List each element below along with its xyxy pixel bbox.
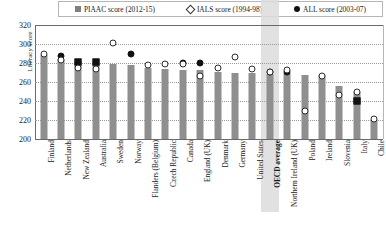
all-score-marker[interactable] [353, 98, 360, 105]
ials-score-marker[interactable] [371, 116, 378, 123]
bar-group[interactable] [226, 25, 243, 139]
y-tick-label-280: 280 [0, 59, 31, 68]
x-tick-label: Sweden [116, 140, 125, 163]
x-tick-label: Czech Republic [169, 140, 178, 187]
piaac-bar[interactable] [232, 73, 239, 140]
piaac-bar[interactable] [197, 70, 204, 139]
bar-group[interactable] [139, 25, 156, 139]
bar-group[interactable] [70, 25, 87, 139]
legend-item-ials: IALS score (1994-98) [187, 5, 262, 14]
bar-group[interactable] [157, 25, 174, 139]
x-tick-label: Ireland [325, 140, 334, 161]
ials-score-marker[interactable] [214, 64, 221, 71]
bar-group[interactable] [348, 25, 365, 139]
piaac-bar[interactable] [371, 120, 378, 139]
bar-group[interactable] [244, 25, 261, 139]
bar-group[interactable] [261, 25, 278, 139]
piaac-bar[interactable] [284, 73, 291, 139]
ials-score-marker[interactable] [197, 73, 204, 80]
piaac-bar[interactable] [145, 68, 152, 139]
bar-group[interactable] [105, 25, 122, 139]
ials-diamond-icon [185, 4, 195, 14]
ials-score-marker[interactable] [336, 92, 343, 99]
bar-group[interactable] [209, 25, 226, 139]
bar-group[interactable] [174, 25, 191, 139]
all-score-marker[interactable] [127, 50, 134, 57]
y-tick-label-300: 300 [0, 40, 31, 49]
ials-score-marker[interactable] [353, 88, 360, 95]
piaac-bar[interactable] [179, 70, 186, 139]
x-tick-label: New Zealand [82, 140, 91, 180]
ials-score-marker[interactable] [40, 51, 47, 58]
y-tick-label-220: 220 [0, 116, 31, 125]
ials-score-marker[interactable] [162, 60, 169, 67]
x-tick-label: Norway [134, 140, 143, 164]
piaac-bar[interactable] [40, 55, 47, 139]
x-tick-label: Denmark [221, 140, 230, 168]
x-tick-label: United States [256, 140, 265, 180]
y-axis-title: Literacy score [26, 22, 33, 82]
x-axis-labels: FinlandNetherlandsNew ZealandAustraliaSw… [35, 140, 383, 236]
piaac-bar[interactable] [75, 62, 82, 139]
piaac-bar[interactable] [249, 73, 256, 140]
piaac-bar[interactable] [266, 74, 273, 139]
ials-score-marker[interactable] [92, 65, 99, 72]
bar-group[interactable] [296, 25, 313, 139]
ials-score-marker[interactable] [266, 68, 273, 75]
all-score-marker[interactable] [197, 60, 204, 67]
ials-score-marker[interactable] [110, 40, 117, 47]
legend-item-piaac: PIAAC score (2012-15) [75, 5, 155, 14]
x-tick-label: Northern Ireland (UK) [290, 140, 299, 207]
ials-score-marker[interactable] [284, 66, 291, 73]
piaac-bar[interactable] [92, 63, 99, 139]
piaac-bar[interactable] [127, 65, 134, 139]
piaac-swatch-icon [75, 6, 81, 12]
x-tick-label: Slovenia [343, 140, 352, 166]
piaac-bar[interactable] [162, 69, 169, 139]
ials-score-marker[interactable] [249, 65, 256, 72]
bar-group[interactable] [313, 25, 330, 139]
ials-score-marker[interactable] [301, 107, 308, 114]
ials-score-marker[interactable] [75, 64, 82, 71]
bar-group[interactable] [192, 25, 209, 139]
x-tick-label: Australia [99, 140, 108, 167]
x-tick-label: Finland [47, 140, 56, 163]
piaac-bar[interactable] [58, 59, 65, 139]
bar-group[interactable] [279, 25, 296, 139]
ials-score-marker[interactable] [232, 54, 239, 61]
y-tick-label-200: 200 [0, 135, 31, 144]
piaac-bar[interactable] [319, 75, 326, 139]
bar-group[interactable] [87, 25, 104, 139]
y-tick-label-320: 320 [0, 21, 31, 30]
y-tick-label-260: 260 [0, 78, 31, 87]
bar-group[interactable] [122, 25, 139, 139]
x-tick-label: Italy [360, 140, 369, 154]
all-dot-icon [294, 6, 300, 12]
y-tick-label-240: 240 [0, 97, 31, 106]
x-tick-label: England (UK) [203, 140, 212, 182]
ials-score-marker[interactable] [319, 73, 326, 80]
x-tick-label: Canada [186, 140, 195, 162]
bar-group[interactable] [35, 25, 52, 139]
piaac-bar[interactable] [214, 72, 221, 139]
legend-label-all: ALL score (2003-07) [303, 5, 366, 14]
x-tick-label: Germany [238, 140, 247, 168]
literacy-score-chart: PIAAC score (2012-15) IALS score (1994-9… [0, 0, 386, 237]
legend-label-piaac: PIAAC score (2012-15) [84, 5, 155, 14]
x-tick-label: Flanders (Belgium) [151, 140, 160, 198]
legend-label-ials: IALS score (1994-98) [197, 5, 262, 14]
bar-group[interactable] [366, 25, 383, 139]
x-tick-label: Netherlands [64, 140, 73, 176]
ials-score-marker[interactable] [179, 60, 186, 67]
ials-score-marker[interactable] [58, 57, 65, 64]
ials-score-marker[interactable] [145, 61, 152, 68]
piaac-bar[interactable] [110, 64, 117, 139]
x-tick-label: Poland [308, 140, 317, 161]
chart-legend: PIAAC score (2012-15) IALS score (1994-9… [58, 1, 383, 17]
plot-area: 320300280260240220200 [35, 25, 383, 139]
legend-item-all: ALL score (2003-07) [294, 5, 366, 14]
x-tick-label: OECD average [273, 140, 282, 188]
plot-right-border [383, 25, 384, 139]
bar-group[interactable] [331, 25, 348, 139]
bar-group[interactable] [52, 25, 69, 139]
